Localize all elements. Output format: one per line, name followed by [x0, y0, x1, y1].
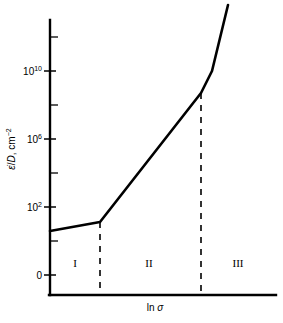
y-axis-title-slash: /: [6, 162, 17, 165]
chart-axes: [49, 20, 276, 295]
chart-plot-area: [0, 0, 283, 323]
y-tick-exponent-10: 10: [34, 65, 42, 72]
y-axis-title-symbol: ε̇: [6, 165, 17, 169]
y-axis-title-denominator: D: [6, 155, 17, 162]
y-tick-label-1e2: 102: [12, 203, 42, 213]
y-axis-title-units: , cm: [6, 136, 17, 155]
region-label-3: III: [216, 258, 260, 269]
x-axis-title-function: ln: [147, 302, 155, 313]
chart-figure: 0 102 106 1010 ε̇/D, cm−2 ln σ I II III: [0, 0, 283, 323]
x-axis-title: ln σ: [120, 303, 190, 313]
region-label-1: I: [55, 258, 95, 269]
y-tick-label-0: 0: [26, 271, 42, 281]
region-label-2: II: [128, 258, 170, 269]
y-tick-exponent-2: 2: [38, 201, 42, 208]
y-tick-label-1e10: 1010: [12, 67, 42, 77]
x-axis-title-variable: σ: [157, 302, 163, 313]
y-axis-title-units-exponent: −2: [5, 128, 12, 136]
y-tick-exponent-6: 6: [38, 133, 42, 140]
y-axis-title: ε̇/D, cm−2: [5, 101, 19, 197]
